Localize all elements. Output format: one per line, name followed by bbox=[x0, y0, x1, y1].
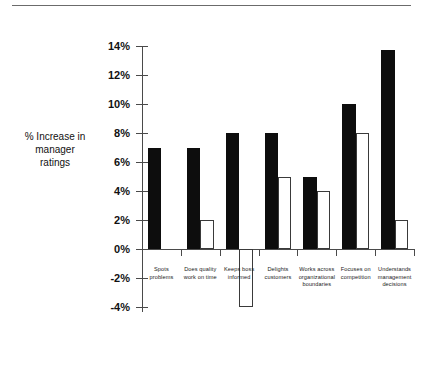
y-axis-title-line-2: manager bbox=[6, 143, 104, 156]
bar-primary bbox=[381, 50, 394, 249]
header-divider bbox=[12, 5, 411, 6]
bar-primary bbox=[342, 104, 355, 249]
category-label-line: Understands bbox=[375, 266, 414, 274]
y-axis-tick-label: 2% bbox=[114, 214, 130, 226]
y-axis-tick-label: 12% bbox=[108, 69, 130, 81]
y-axis-tick-label: -4% bbox=[110, 301, 130, 313]
bar-secondary bbox=[395, 220, 408, 249]
y-axis-tick: 2% bbox=[136, 220, 148, 221]
category-label: Spotsproblems bbox=[142, 266, 181, 281]
category-label-line: management bbox=[375, 274, 414, 282]
category-label-line: Works across bbox=[297, 266, 336, 274]
y-axis-tick-label: 6% bbox=[114, 156, 130, 168]
bar-secondary bbox=[356, 133, 369, 249]
y-axis-title-line-1: % Increase in bbox=[6, 130, 104, 143]
y-axis-tick: 8% bbox=[136, 133, 148, 134]
bar-primary bbox=[226, 133, 239, 249]
category-label-line: Keeps boss bbox=[220, 266, 259, 274]
category-label-line: Delights bbox=[259, 266, 298, 274]
bar-primary bbox=[187, 148, 200, 250]
category-label-line: competition bbox=[336, 274, 375, 282]
y-axis-tick-label: 0% bbox=[114, 243, 130, 255]
y-axis-tick-label: 4% bbox=[114, 185, 130, 197]
x-axis-tick bbox=[375, 249, 376, 256]
y-axis-tick-label: -2% bbox=[110, 272, 130, 284]
x-axis-tick bbox=[414, 249, 415, 256]
category-label-line: problems bbox=[142, 274, 181, 282]
y-axis-tick-label: 14% bbox=[108, 40, 130, 52]
category-label-line: customers bbox=[259, 274, 298, 282]
x-axis-tick bbox=[142, 249, 143, 256]
category-label: Delightscustomers bbox=[259, 266, 298, 281]
category-label-line: decisions bbox=[375, 281, 414, 289]
category-label-line: boundaries bbox=[297, 281, 336, 289]
category-label-line: Does quality bbox=[181, 266, 220, 274]
category-label-line: work on time bbox=[181, 274, 220, 282]
x-axis-tick bbox=[220, 249, 221, 256]
y-axis-tick: 12% bbox=[136, 75, 148, 76]
category-label: Works acrossorganizationalboundaries bbox=[297, 266, 336, 289]
category-label-line: Spots bbox=[142, 266, 181, 274]
bar-chart-plot-area: 14%12%10%8%6%4%2%0%-2%-4% SpotsproblemsD… bbox=[104, 30, 416, 310]
bar-primary bbox=[303, 177, 316, 250]
bar-primary bbox=[148, 148, 161, 250]
x-axis-baseline bbox=[142, 249, 414, 250]
bar-primary bbox=[265, 133, 278, 249]
category-label: Does qualitywork on time bbox=[181, 266, 220, 281]
y-axis-tick: 6% bbox=[136, 162, 148, 163]
y-axis-tick: 14% bbox=[136, 46, 148, 47]
category-label: Understandsmanagementdecisions bbox=[375, 266, 414, 289]
category-label-line: organizational bbox=[297, 274, 336, 282]
x-axis-tick bbox=[181, 249, 182, 256]
x-axis-tick bbox=[297, 249, 298, 256]
y-axis-tick-label: 10% bbox=[108, 98, 130, 110]
category-label-line: Focuses on bbox=[336, 266, 375, 274]
y-axis-tick: 4% bbox=[136, 191, 148, 192]
bar-secondary bbox=[317, 191, 330, 249]
bar-secondary bbox=[200, 220, 213, 249]
x-axis-tick bbox=[259, 249, 260, 256]
y-axis-tick-label: 8% bbox=[114, 127, 130, 139]
y-axis-title: % Increase in manager ratings bbox=[6, 130, 104, 169]
category-label: Keeps bossinformed bbox=[220, 266, 259, 281]
bar-secondary bbox=[278, 177, 291, 250]
x-axis-tick bbox=[336, 249, 337, 256]
y-axis-title-line-3: ratings bbox=[6, 156, 104, 169]
category-label-line: informed bbox=[220, 274, 259, 282]
y-axis-tick: 10% bbox=[136, 104, 148, 105]
y-axis-tick: -4% bbox=[136, 307, 148, 308]
category-label: Focuses oncompetition bbox=[336, 266, 375, 281]
